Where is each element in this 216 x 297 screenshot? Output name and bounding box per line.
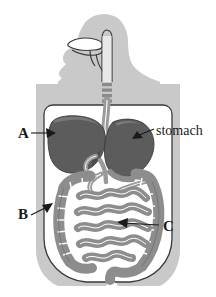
label-a: A bbox=[18, 125, 29, 141]
digestive-system-figure: A B C stomach bbox=[0, 0, 216, 297]
label-stomach: stomach bbox=[156, 123, 203, 138]
anatomy-illustration: A B C stomach bbox=[0, 0, 216, 297]
label-b: B bbox=[18, 206, 28, 222]
tongue-shape bbox=[68, 38, 103, 50]
label-c: C bbox=[163, 218, 174, 234]
esophagus-lumen-upper bbox=[103, 36, 112, 82]
